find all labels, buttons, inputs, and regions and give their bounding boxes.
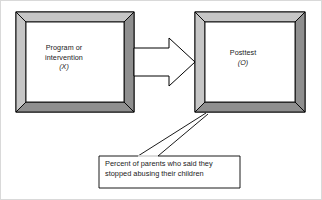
bevel-top xyxy=(195,12,305,22)
posttest-box xyxy=(195,12,305,112)
bevel-bottom xyxy=(16,102,134,112)
inner-panel xyxy=(205,22,295,102)
inner-panel xyxy=(26,22,124,102)
bevel-left xyxy=(195,12,205,112)
callout-leader-lines xyxy=(138,113,208,156)
bevel-right xyxy=(124,12,134,112)
block-arrow xyxy=(134,38,195,86)
bevel-top xyxy=(16,12,134,22)
bevel-left xyxy=(16,12,26,112)
program-or-intervention-box xyxy=(16,12,134,112)
callout-line1: Percent of parents who said they xyxy=(105,159,231,169)
leader-line-right xyxy=(158,114,208,156)
callout-caption: Percent of parents who said they stopped… xyxy=(105,159,231,180)
leader-line-left xyxy=(138,113,206,156)
bevel-bottom xyxy=(195,102,305,112)
diagram-canvas: Program or intervention (X) Posttest (O)… xyxy=(0,0,322,200)
bevel-right xyxy=(295,12,305,112)
callout-line2: stopped abusing their children xyxy=(105,169,231,179)
